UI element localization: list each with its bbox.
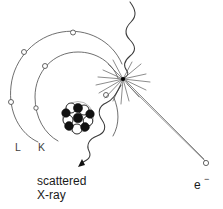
ejected-electron-track: [126, 81, 209, 166]
impact-point: [121, 77, 125, 81]
l-shell-electrons: [9, 30, 76, 105]
proton-1: [73, 103, 82, 112]
shell-label-l: L: [15, 141, 21, 153]
diagram-canvas: L K scattered X-ray e −: [0, 0, 223, 209]
electron-k-1: [43, 64, 48, 69]
proton-6: [81, 123, 90, 132]
electron-l-2: [22, 50, 27, 55]
electron-l-1: [71, 30, 76, 35]
scattered-xray-label-line1: scattered: [37, 174, 86, 188]
shell-label-k: K: [38, 141, 45, 153]
ejected-electron: [203, 160, 208, 165]
proton-4: [73, 113, 83, 123]
electron-label: e: [194, 178, 201, 192]
proton-2: [62, 109, 71, 118]
proton-5: [65, 122, 74, 131]
proton-3: [86, 110, 95, 119]
scattered-xray-label-line2: X-ray: [37, 188, 66, 202]
nucleus: [62, 102, 95, 135]
electron-k-3: [34, 106, 38, 110]
electron-charge-sign: −: [204, 174, 209, 184]
inner-orbit-fragment: [113, 98, 118, 136]
scattered-xray-arrowhead: [78, 159, 85, 167]
electron-l-3: [9, 100, 14, 105]
compton-scattering-diagram: L K scattered X-ray e −: [0, 0, 223, 209]
